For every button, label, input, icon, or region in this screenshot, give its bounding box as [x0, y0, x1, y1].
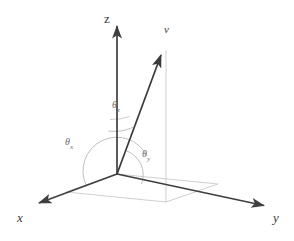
theta-z-arc-inner	[110, 117, 130, 120]
theta-x-subscript: x	[70, 143, 73, 150]
vector-v-line	[117, 55, 161, 174]
figure-canvas	[0, 0, 294, 241]
vector-v-label: v	[164, 24, 169, 35]
y-axis-line	[117, 174, 264, 206]
y-axis-label: y	[273, 211, 279, 224]
z-axis-label: z	[104, 12, 110, 25]
theta-z-arc-outer	[109, 127, 134, 131]
theta-z-subscript: z	[117, 106, 120, 113]
x-axis-label: x	[17, 211, 23, 224]
theta-x-label: θx	[65, 137, 73, 150]
projection-base-quad	[66, 174, 218, 202]
theta-z-label: θz	[112, 100, 119, 113]
theta-y-label: θy	[142, 149, 150, 162]
x-axis-line	[39, 174, 117, 203]
direction-angles-figure: z x y v θz θx θy	[0, 0, 294, 241]
theta-y-subscript: y	[147, 155, 150, 162]
